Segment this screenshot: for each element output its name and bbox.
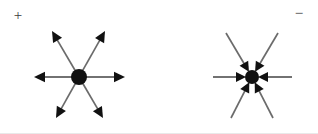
positive-charge-group: +	[14, 7, 125, 118]
negative-ray-east-arrowhead	[258, 72, 268, 82]
positive-ray-southeast-shaft	[83, 83, 99, 111]
field-diagram-canvas: + −	[0, 0, 318, 134]
positive-ray-east-arrowhead	[114, 72, 125, 82]
positive-ray-southwest-shaft	[60, 83, 76, 111]
electric-field-figure: + −	[0, 0, 318, 134]
positive-ray-northwest-shaft	[56, 38, 75, 71]
negative-charge-dot	[245, 70, 259, 84]
negative-charge-group: −	[213, 5, 303, 118]
negative-ray-southeast-shaft	[259, 90, 273, 118]
positive-sign-label: +	[14, 7, 22, 23]
positive-ray-west-arrowhead	[34, 72, 45, 82]
negative-sign-label: −	[295, 5, 303, 21]
positive-ray-northeast-shaft	[82, 38, 101, 71]
negative-ray-southwest-shaft	[231, 90, 245, 118]
negative-ray-northwest-shaft	[226, 33, 245, 65]
negative-ray-west-arrowhead	[236, 72, 246, 82]
negative-ray-northeast-shaft	[259, 33, 278, 65]
positive-ray-southeast-arrowhead	[93, 106, 103, 118]
positive-ray-northwest-arrowhead	[52, 31, 62, 43]
positive-charge-dot	[71, 69, 87, 85]
